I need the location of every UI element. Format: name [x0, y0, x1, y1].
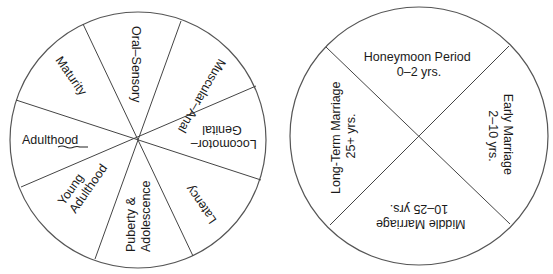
sector-label-adulthood: Adulthood [22, 133, 78, 147]
sector-label-oral-sensory: Oral–Sensory [129, 26, 143, 103]
diagram-canvas: Oral–Sensory Muscular–Anal Locomotor– Ge… [0, 0, 553, 274]
right-wheel: Honeymoon Period 0–2 yrs. Early Marriage… [290, 7, 548, 265]
left-wheel: Oral–Sensory Muscular–Anal Locomotor– Ge… [10, 12, 266, 268]
